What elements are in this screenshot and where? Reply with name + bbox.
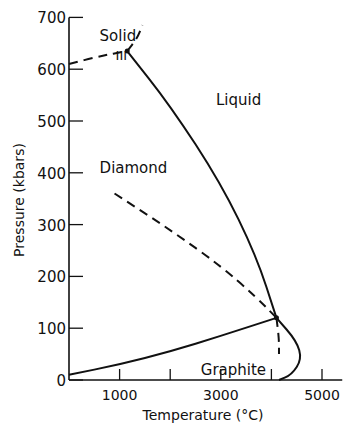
y-tick-label: 700: [37, 9, 66, 27]
region-label: Liquid: [216, 91, 261, 109]
tick-marks: 0100200300400500600700100030005000: [37, 9, 339, 403]
phase-boundary-curve: [276, 318, 279, 354]
region-label: Graphite: [201, 361, 266, 379]
phase-diagram: 0100200300400500600700100030005000 Solid…: [0, 0, 354, 433]
y-tick-label: 0: [56, 372, 66, 390]
axes: [69, 17, 342, 380]
y-tick-label: 200: [37, 268, 66, 286]
x-axis-label: Temperature (°C): [142, 407, 264, 423]
region-labels: SolidIIILiquidDiamondGraphite: [100, 27, 266, 379]
y-tick-label: 100: [37, 320, 66, 338]
region-label: Solid: [100, 27, 137, 45]
phase-boundary-curve: [115, 194, 277, 318]
triple-point: [274, 315, 279, 320]
y-tick-label: 300: [37, 217, 66, 235]
y-tick-label: 500: [37, 113, 66, 131]
region-sublabel: III: [116, 48, 128, 63]
y-axis-label: Pressure (kbars): [11, 143, 27, 257]
x-tick-label: 3000: [203, 387, 239, 403]
region-label: Diamond: [100, 159, 168, 177]
y-tick-label: 600: [37, 61, 66, 79]
x-tick-label: 1000: [102, 387, 138, 403]
y-tick-label: 400: [37, 165, 66, 183]
phase-boundary-curve: [276, 318, 300, 380]
x-tick-label: 5000: [304, 387, 340, 403]
phase-boundaries: [69, 25, 300, 380]
